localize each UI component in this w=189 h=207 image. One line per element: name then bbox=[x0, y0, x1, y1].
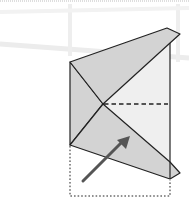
origami-diagram bbox=[0, 0, 189, 207]
